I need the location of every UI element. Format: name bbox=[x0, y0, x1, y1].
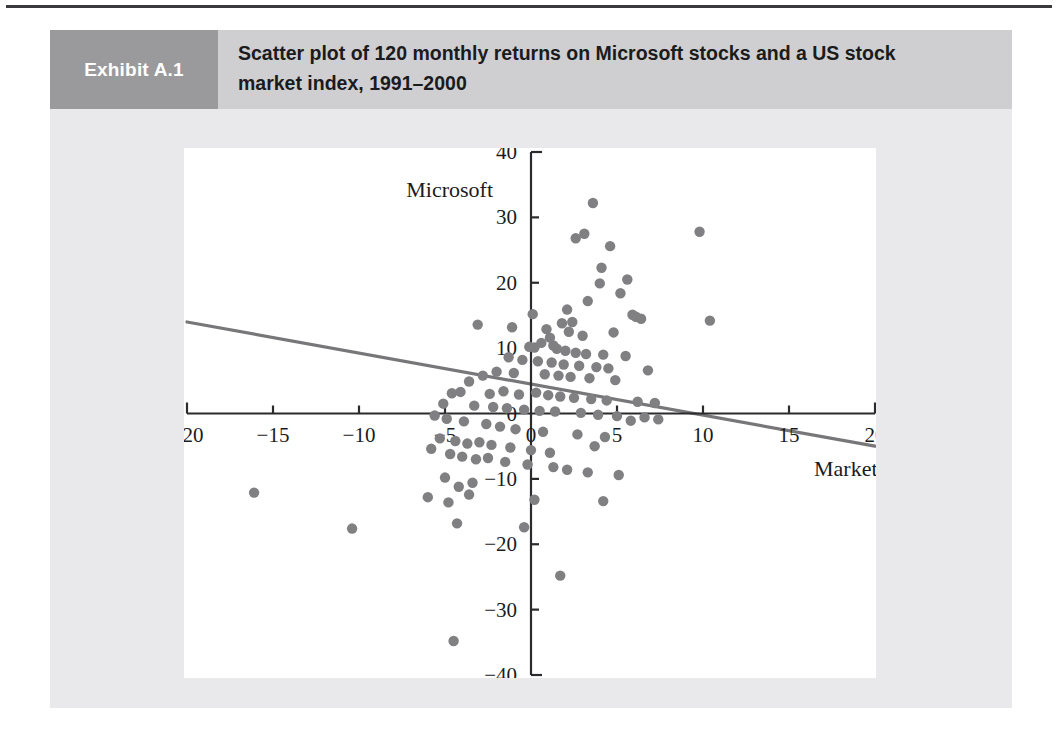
data-point bbox=[615, 288, 625, 298]
data-point bbox=[442, 414, 452, 424]
axes-layer bbox=[187, 152, 875, 675]
data-point bbox=[249, 487, 259, 497]
data-point bbox=[454, 482, 464, 492]
data-point bbox=[464, 489, 474, 499]
data-point bbox=[596, 263, 606, 273]
data-point bbox=[622, 274, 632, 284]
data-point bbox=[519, 404, 529, 414]
data-point bbox=[595, 278, 605, 288]
data-point bbox=[598, 496, 608, 506]
data-point bbox=[626, 415, 636, 425]
data-point bbox=[462, 438, 472, 448]
data-point bbox=[694, 227, 704, 237]
data-point bbox=[483, 453, 493, 463]
data-point bbox=[705, 315, 715, 325]
data-point bbox=[495, 421, 505, 431]
data-point bbox=[426, 444, 436, 454]
data-point bbox=[472, 319, 482, 329]
data-point bbox=[588, 198, 598, 208]
y-tick-label: −40 bbox=[484, 663, 517, 678]
data-point bbox=[571, 233, 581, 243]
exhibit-title: Scatter plot of 120 monthly returns on M… bbox=[238, 38, 938, 98]
data-point bbox=[510, 424, 520, 434]
data-point bbox=[560, 346, 570, 356]
data-point bbox=[471, 454, 481, 464]
data-point bbox=[435, 433, 445, 443]
data-point bbox=[443, 497, 453, 507]
data-point bbox=[500, 457, 510, 467]
data-point bbox=[503, 352, 513, 362]
data-point bbox=[543, 390, 553, 400]
data-point bbox=[528, 309, 538, 319]
data-point bbox=[550, 406, 560, 416]
data-point bbox=[558, 359, 568, 369]
data-point bbox=[567, 317, 577, 327]
data-point bbox=[469, 400, 479, 410]
data-point bbox=[553, 370, 563, 380]
data-point bbox=[653, 414, 663, 424]
data-point bbox=[603, 363, 613, 373]
exhibit-number-label: Exhibit A.1 bbox=[84, 59, 184, 81]
data-point bbox=[614, 470, 624, 480]
data-point bbox=[452, 518, 462, 528]
data-point bbox=[584, 373, 594, 383]
data-point bbox=[591, 362, 601, 372]
y-tick-label: −10 bbox=[484, 467, 517, 491]
data-point bbox=[589, 441, 599, 451]
y-tick-label: −30 bbox=[484, 598, 517, 622]
data-point bbox=[448, 636, 458, 646]
data-point bbox=[583, 296, 593, 306]
y-tick-label: 30 bbox=[496, 205, 517, 229]
data-point bbox=[519, 522, 529, 532]
data-point bbox=[540, 369, 550, 379]
data-point bbox=[576, 408, 586, 418]
data-point bbox=[581, 349, 591, 359]
data-point bbox=[514, 389, 524, 399]
data-point bbox=[572, 429, 582, 439]
data-point bbox=[533, 356, 543, 366]
data-point bbox=[502, 403, 512, 413]
x-tick-label: 10 bbox=[693, 423, 714, 447]
data-point bbox=[450, 436, 460, 446]
y-tick-label: 40 bbox=[496, 148, 517, 164]
data-point bbox=[517, 355, 527, 365]
data-point bbox=[601, 395, 611, 405]
data-point bbox=[459, 416, 469, 426]
data-point bbox=[429, 410, 439, 420]
scatter-plot-svg: −20−15−10−505101520−40−30−20−10010203040… bbox=[184, 148, 876, 678]
plot-canvas: −20−15−10−505101520−40−30−20−10010203040… bbox=[184, 148, 876, 678]
data-point bbox=[555, 391, 565, 401]
data-point bbox=[612, 411, 622, 421]
data-point bbox=[488, 402, 498, 412]
data-point bbox=[600, 432, 610, 442]
data-point bbox=[605, 241, 615, 251]
data-point bbox=[536, 338, 546, 348]
data-point bbox=[486, 440, 496, 450]
data-point bbox=[505, 442, 515, 452]
data-point bbox=[455, 387, 465, 397]
data-point bbox=[586, 394, 596, 404]
data-point bbox=[569, 393, 579, 403]
data-point bbox=[347, 523, 357, 533]
data-point bbox=[636, 314, 646, 324]
data-point bbox=[438, 398, 448, 408]
data-point bbox=[529, 495, 539, 505]
x-axis-title: Market bbox=[814, 456, 876, 481]
exhibit-number-box: Exhibit A.1 bbox=[50, 30, 218, 109]
data-point bbox=[552, 344, 562, 354]
data-point bbox=[522, 459, 532, 469]
data-point bbox=[491, 366, 501, 376]
data-point bbox=[481, 419, 491, 429]
data-points-layer bbox=[249, 198, 715, 646]
y-tick-label: −20 bbox=[484, 532, 517, 556]
data-point bbox=[526, 445, 536, 455]
y-tick-label: 20 bbox=[496, 271, 517, 295]
data-point bbox=[485, 389, 495, 399]
data-point bbox=[498, 386, 508, 396]
data-point bbox=[610, 375, 620, 385]
data-point bbox=[538, 427, 548, 437]
data-point bbox=[620, 351, 630, 361]
data-point bbox=[577, 331, 587, 341]
data-point bbox=[650, 398, 660, 408]
data-point bbox=[474, 437, 484, 447]
